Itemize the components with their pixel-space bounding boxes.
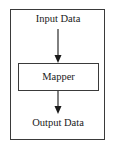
mapper-node: Mapper: [18, 63, 99, 91]
output-data-label: Output Data: [0, 117, 116, 129]
mapper-label: Mapper: [42, 71, 75, 83]
input-data-label: Input Data: [0, 13, 116, 25]
